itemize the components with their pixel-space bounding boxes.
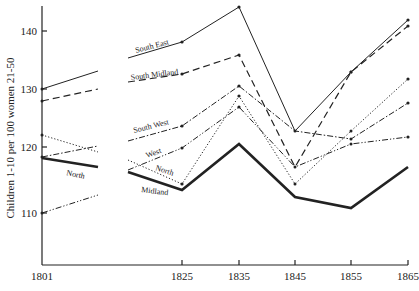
y-axis-label: Children 1-10 per 100 women 21-50 xyxy=(4,57,16,218)
series-south-east xyxy=(42,7,408,131)
label-north-left: North xyxy=(66,168,86,181)
y-tick-130: 130 xyxy=(21,83,38,95)
north-markers xyxy=(41,77,410,185)
x-tick-1825: 1825 xyxy=(171,270,194,282)
south-midland-markers xyxy=(41,24,410,102)
x-tick-1801: 1801 xyxy=(31,270,53,282)
y-tick-140: 140 xyxy=(21,25,38,37)
label-south-west: South West xyxy=(132,117,170,135)
line-chart: 140 130 120 110 1801 1825 1835 1845 1855… xyxy=(0,0,419,291)
series-west xyxy=(42,107,408,213)
x-axis xyxy=(42,260,408,265)
y-tick-110: 110 xyxy=(21,207,38,219)
series-midland xyxy=(42,144,408,208)
series-south-west xyxy=(42,86,408,157)
label-west: West xyxy=(145,146,164,160)
y-tick-120: 120 xyxy=(21,141,38,153)
label-south-midland: South Midland xyxy=(130,67,179,82)
series-north xyxy=(42,79,408,184)
x-tick-1835: 1835 xyxy=(228,270,251,282)
label-midland: Midland xyxy=(141,185,169,197)
west-markers xyxy=(41,105,410,214)
label-south-east: South East xyxy=(134,37,170,55)
series-south-midland xyxy=(42,26,408,167)
x-tick-1855: 1855 xyxy=(340,270,363,282)
label-north-mid: North xyxy=(154,163,175,177)
x-tick-1845: 1845 xyxy=(284,270,307,282)
x-tick-1865: 1865 xyxy=(397,270,419,282)
